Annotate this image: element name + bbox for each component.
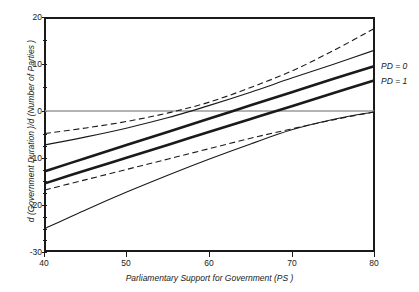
x-tick-label: 80 — [359, 259, 389, 268]
x-tick-mark — [209, 252, 210, 257]
x-axis-title: Parliamentary Support for Government (PS… — [44, 273, 375, 283]
legend-label-pd0: PD = 0 — [381, 62, 407, 71]
x-axis: 40 50 60 70 80 — [0, 0, 419, 292]
x-tick-label: 70 — [277, 259, 307, 268]
x-tick-label: 60 — [194, 259, 224, 268]
x-tick-label: 40 — [29, 259, 59, 268]
x-tick-mark — [292, 252, 293, 257]
x-tick-mark — [44, 252, 45, 257]
y-axis-title: d (Government Duration )/d (Number of Pa… — [26, 16, 36, 246]
x-tick-mark — [126, 252, 127, 257]
legend-label-pd1: PD = 1 — [381, 77, 407, 86]
x-tick-mark — [374, 252, 375, 257]
marginal-effect-chart: 20 10 0 -10 -20 -30 40 50 60 70 80 — [0, 0, 419, 292]
x-tick-label: 50 — [111, 259, 141, 268]
